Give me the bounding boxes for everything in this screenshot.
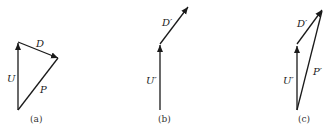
panel-c: D′ U′ P′ (c) — [283, 10, 323, 124]
caption-a: (a) — [30, 114, 42, 124]
caption-c: (c) — [298, 114, 310, 124]
label-p-prime: P′ — [312, 66, 323, 77]
label-u-prime: U′ — [146, 75, 157, 86]
label-u: U — [7, 73, 16, 84]
panel-b: D′ U′ (b) — [146, 7, 188, 124]
label-d-prime: D′ — [161, 17, 173, 28]
vector-p-line — [18, 58, 58, 110]
label-p: P — [39, 84, 47, 95]
panel-a: D U P (a) — [7, 38, 58, 124]
caption-b: (b) — [158, 114, 171, 124]
label-d: D — [35, 38, 44, 49]
label-d-prime: D′ — [296, 18, 308, 29]
label-u-prime: U′ — [283, 75, 294, 86]
vector-diagram: D U P (a) D′ U′ (b) D′ U′ P′ (c) — [0, 0, 332, 135]
